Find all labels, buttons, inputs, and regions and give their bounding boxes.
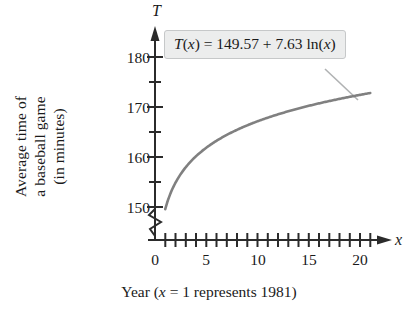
equation-variable-2: x — [324, 35, 331, 52]
chart-figure: Average time of a baseball game (in minu… — [0, 0, 418, 317]
equation-close-paren-2: ) — [331, 35, 336, 52]
equation-callout: T(x) = 149.57 + 7.63 ln(x) — [164, 30, 346, 59]
equation-variable-1: x — [188, 35, 195, 52]
equation-plus: + — [259, 35, 276, 52]
x-axis — [148, 236, 392, 245]
equation-function-name: T — [174, 35, 183, 52]
equation-ln: ln — [306, 35, 318, 52]
data-curve — [165, 93, 370, 209]
equation-equals: = — [200, 35, 217, 52]
equation-intercept: 149.57 — [216, 35, 259, 52]
equation-coefficient: 7.63 — [275, 35, 302, 52]
x-axis-ticks — [165, 233, 370, 247]
